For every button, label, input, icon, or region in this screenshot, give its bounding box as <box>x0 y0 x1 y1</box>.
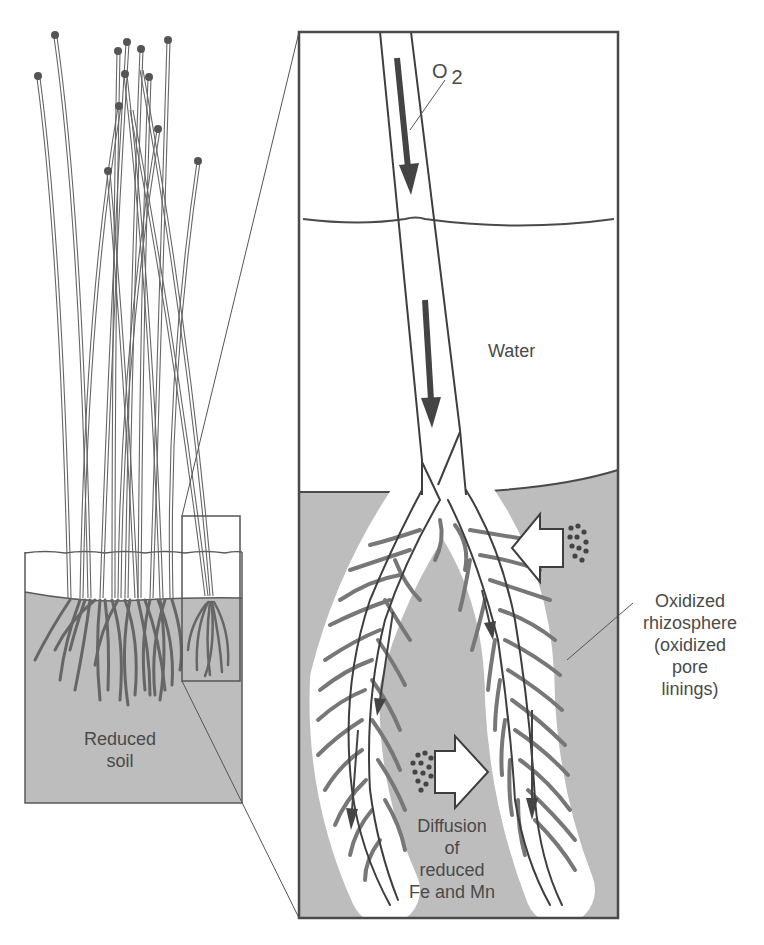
oxidized-rhizosphere-line-2: rhizosphere <box>620 612 760 634</box>
diffusion-line-1: Diffusion <box>392 815 512 837</box>
diffusion-label: Diffusion of reduced Fe and Mn <box>392 815 512 903</box>
reduced-soil-line-1: Reduced <box>50 728 190 750</box>
plant-stem-detail <box>380 32 466 500</box>
oxygen-subscript: 2 <box>452 66 463 88</box>
diagram-canvas <box>0 0 764 945</box>
oxidized-rhizosphere-line-1: Oxidized <box>620 590 760 612</box>
overview-panel <box>25 31 299 918</box>
detail-panel <box>299 32 633 918</box>
oxygen-symbol: O <box>432 60 448 82</box>
reduced-soil-label: Reduced soil <box>50 728 190 772</box>
diffusion-line-3: reduced <box>392 859 512 881</box>
oxidized-rhizosphere-label: Oxidized rhizosphere (oxidized pore lini… <box>620 590 760 700</box>
plant-stems <box>37 37 213 598</box>
water-label: Water <box>488 340 535 362</box>
detail-water-surface <box>303 218 614 226</box>
oxidized-rhizosphere-line-3: (oxidized <box>620 634 760 656</box>
oxygen-label: O2 <box>432 60 463 88</box>
oxidized-rhizosphere-line-5: linings) <box>620 678 760 700</box>
diffusion-line-4: Fe and Mn <box>392 881 512 903</box>
oxidized-rhizosphere-line-4: pore <box>620 656 760 678</box>
reduced-soil-line-2: soil <box>50 750 190 772</box>
diffusion-line-2: of <box>392 837 512 859</box>
zoom-connector-top <box>182 32 299 516</box>
